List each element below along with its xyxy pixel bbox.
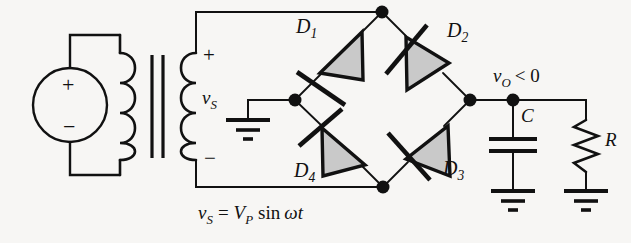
ground-symbol-resistor — [564, 191, 608, 210]
diode-d1-triangle — [320, 32, 363, 80]
secondary-coil — [181, 53, 196, 160]
diode-d1-label: D1 — [296, 16, 317, 41]
resistor-r — [574, 120, 598, 172]
equation-amplitude-symbol: V — [234, 202, 246, 223]
capacitor-label: C — [521, 106, 534, 125]
source-minus-sign: − — [63, 116, 75, 138]
node-output — [507, 94, 520, 107]
output-voltage-subscript: O — [501, 75, 510, 90]
ground-branch-wire — [248, 100, 295, 118]
secondary-voltage-label: vS — [202, 88, 217, 112]
source-bottom-lead — [70, 142, 120, 175]
diode-d4-triangle — [322, 128, 365, 176]
diode-d2-index: 2 — [461, 30, 468, 45]
transformer-primary — [120, 35, 135, 175]
resistor-label: R — [605, 130, 617, 149]
secondary-plus-sign: + — [203, 45, 215, 66]
node-bridge-bottom — [377, 181, 390, 194]
equation-time: t — [298, 202, 303, 223]
transformer-core — [152, 55, 163, 158]
capacitor-c — [489, 139, 537, 151]
circuit-figure: + − + − vS D1 D2 D4 D3 vO< 0 C R vS=VPsi… — [0, 0, 631, 243]
diode-d3-label: D3 — [443, 158, 464, 183]
equation-amplitude-subscript: P — [245, 212, 253, 227]
equation-function: sin — [258, 202, 280, 223]
secondary-ground-branch — [248, 100, 295, 118]
diode-d2 — [386, 25, 449, 90]
output-voltage-label: vO< 0 — [493, 66, 540, 90]
diode-d3-index: 3 — [457, 168, 464, 183]
equation-equals: = — [218, 202, 229, 223]
diode-d1-name: D — [296, 15, 310, 37]
node-bridge-top — [376, 6, 389, 19]
secondary-minus-sign: − — [204, 148, 216, 169]
source-equation: vS=VPsinωt — [198, 203, 303, 227]
diode-d4-name: D — [294, 159, 308, 181]
equation-omega: ω — [284, 202, 297, 223]
node-bridge-left — [289, 94, 302, 107]
diode-d4-index: 4 — [308, 170, 315, 185]
output-relation: < 0 — [515, 65, 540, 86]
diode-d2-name: D — [447, 19, 461, 41]
ground-symbol-capacitor — [491, 191, 535, 210]
primary-coil — [120, 53, 135, 160]
diode-d1-index: 1 — [310, 26, 317, 41]
node-bridge-right — [464, 94, 477, 107]
diode-d3-name: D — [443, 157, 457, 179]
source-top-lead — [70, 35, 120, 68]
ac-source — [33, 35, 120, 175]
diode-d2-label: D2 — [447, 20, 468, 45]
equation-lhs-subscript: S — [206, 212, 212, 227]
ground-symbol-secondary — [226, 120, 270, 139]
secondary-voltage-subscript: S — [210, 97, 216, 112]
transformer-secondary — [181, 53, 196, 160]
diode-d4-label: D4 — [294, 160, 315, 185]
diode-d1 — [297, 32, 363, 105]
resistor-zigzag — [574, 120, 598, 172]
source-plus-sign: + — [62, 74, 74, 96]
